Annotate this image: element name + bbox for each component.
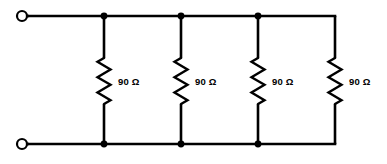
resistor-value-label: 90 Ω [118, 76, 140, 87]
resistor-branch [98, 16, 111, 144]
junction-node-dot [255, 141, 262, 148]
resistor-value-label: 90 Ω [195, 76, 217, 87]
resistor-value-label: 90 Ω [349, 76, 371, 87]
resistor-value-label: 90 Ω [272, 76, 294, 87]
resistor-zigzag-symbol [252, 58, 265, 104]
circuit-diagram: 90 Ω90 Ω90 Ω90 Ω [0, 0, 387, 164]
terminal-top-left [17, 11, 27, 21]
junction-node-dot [101, 13, 108, 20]
resistor-zigzag-symbol [98, 58, 111, 104]
junction-node-dot [178, 13, 185, 20]
resistor-zigzag-symbol [329, 58, 342, 104]
junction-node-dot [255, 13, 262, 20]
resistor-zigzag-symbol [175, 58, 188, 104]
resistor-branch [329, 16, 342, 144]
junction-node-dot [178, 141, 185, 148]
resistor-branch [252, 16, 265, 144]
circuit-canvas: 90 Ω90 Ω90 Ω90 Ω [0, 0, 387, 164]
terminal-bottom-left [17, 139, 27, 149]
resistor-branch [175, 16, 188, 144]
terminals-group [17, 11, 29, 149]
junction-node-dot [101, 141, 108, 148]
